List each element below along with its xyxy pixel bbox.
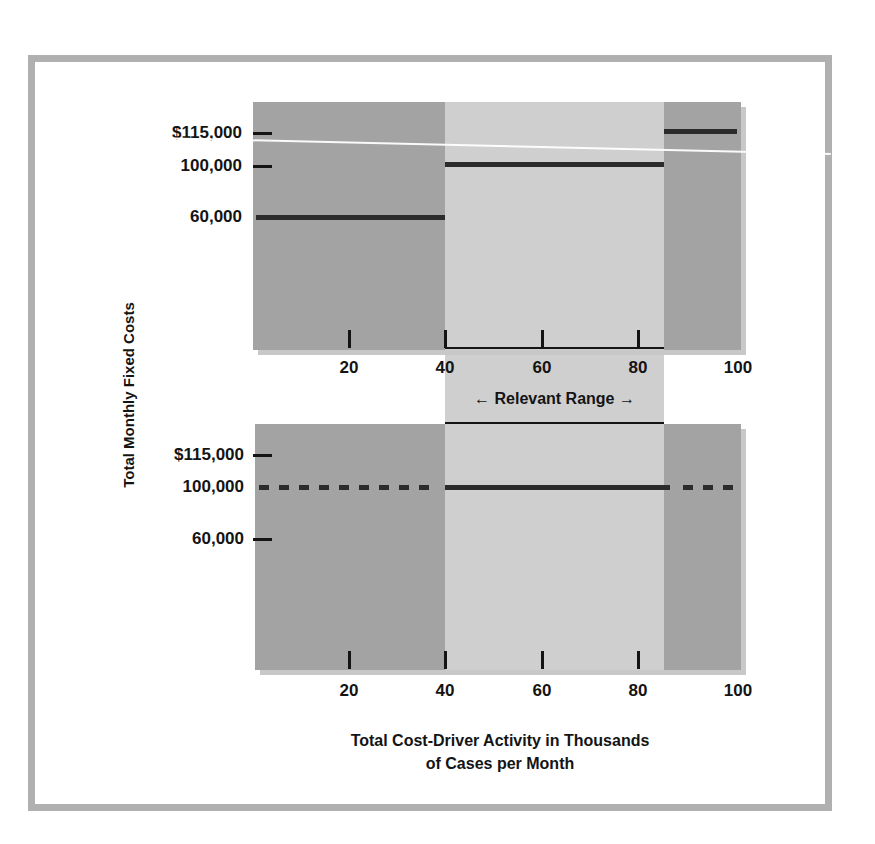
top-x-label-60: 60	[512, 358, 572, 378]
bottom-panel-relevant-region	[445, 424, 664, 670]
x-axis-title-line1: Total Cost-Driver Activity in Thousands	[290, 729, 710, 752]
top-y-label-100000: 100,000	[122, 156, 242, 176]
bottom-line-100000-dashed-left	[259, 485, 439, 490]
top-x-tick-60	[541, 330, 544, 348]
x-axis-title-line2: of Cases per Month	[290, 752, 710, 775]
top-y-tick-115000	[253, 132, 272, 135]
bottom-y-label-100000: 100,000	[124, 477, 244, 497]
bottom-line-100000-solid	[445, 485, 670, 490]
top-x-label-20: 20	[319, 358, 379, 378]
bottom-line-100000-dashed-right	[683, 485, 737, 490]
bottom-y-label-60000: 60,000	[124, 529, 244, 549]
bottom-x-tick-40	[444, 651, 447, 669]
bottom-x-label-100: 100	[708, 681, 768, 701]
top-x-label-40: 40	[415, 358, 475, 378]
top-x-label-80: 80	[608, 358, 668, 378]
top-range-baseline	[445, 347, 664, 349]
top-x-label-100: 100	[708, 358, 768, 378]
top-x-tick-80	[637, 330, 640, 348]
x-axis-title: Total Cost-Driver Activity in Thousands …	[290, 729, 710, 775]
bottom-x-tick-80	[637, 651, 640, 669]
top-line-60000	[256, 215, 445, 220]
top-line-100000	[445, 162, 664, 167]
bottom-x-label-80: 80	[608, 681, 668, 701]
bottom-x-label-40: 40	[415, 681, 475, 701]
top-line-115000	[664, 129, 737, 134]
relevant-range-label: ← Relevant Range →	[445, 388, 664, 410]
top-x-tick-40	[444, 330, 447, 348]
bottom-y-tick-60000	[253, 538, 272, 541]
top-panel-relevant-region	[445, 102, 664, 350]
bottom-panel-right-region	[664, 424, 741, 670]
bottom-x-tick-20	[348, 651, 351, 669]
y-axis-title: Total Monthly Fixed Costs	[120, 245, 137, 545]
top-y-label-60000: 60,000	[122, 207, 242, 227]
bottom-y-tick-115000	[253, 454, 272, 457]
bottom-range-topline	[445, 422, 664, 424]
bottom-panel-left-region	[255, 424, 445, 670]
bottom-x-label-60: 60	[512, 681, 572, 701]
top-panel-right-region	[664, 102, 741, 350]
bottom-x-label-20: 20	[319, 681, 379, 701]
bottom-x-tick-60	[541, 651, 544, 669]
top-y-tick-100000	[253, 165, 272, 168]
top-x-tick-20	[348, 330, 351, 348]
bottom-y-label-115000: $115,000	[124, 445, 244, 465]
